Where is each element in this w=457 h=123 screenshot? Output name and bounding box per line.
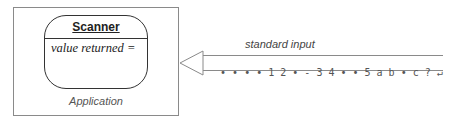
stream-characters: • • • • 1 2 • - 3 4 • • 5 a b • c ? ↵	[220, 67, 443, 78]
input-stream-content: • • • • 1 2 • - 3 4 • • 5 a b • c ? ↵	[208, 56, 443, 78]
